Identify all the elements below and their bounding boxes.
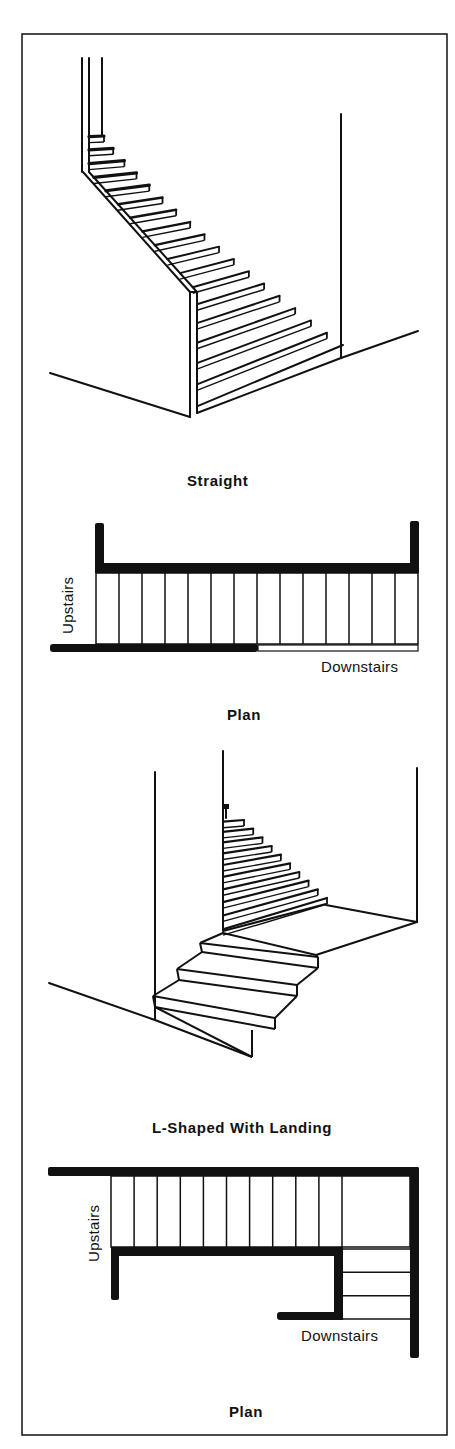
label-upstairs-l-shaped: Upstairs — [85, 1205, 102, 1262]
label-downstairs-straight: Downstairs — [321, 658, 398, 675]
label-downstairs-l-shaped: Downstairs — [301, 1327, 378, 1344]
caption-straight-plan: Plan — [227, 706, 261, 723]
straight-staircase-perspective — [50, 58, 418, 417]
caption-straight: Straight — [187, 472, 248, 489]
caption-l-shaped: L-Shaped With Landing — [152, 1119, 332, 1136]
staircase-diagram-canvas — [0, 0, 455, 1449]
straight-plan — [50, 521, 419, 652]
caption-l-shaped-plan: Plan — [229, 1403, 263, 1420]
label-upstairs-straight: Upstairs — [59, 577, 76, 634]
l-shaped-staircase-perspective — [49, 751, 417, 1057]
